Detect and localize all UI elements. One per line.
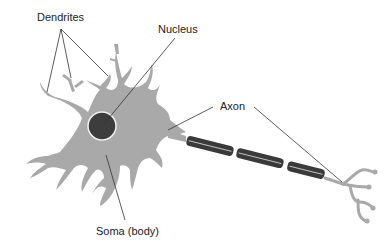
label-nucleus: Nucleus <box>158 24 198 35</box>
dendrites-leader-3 <box>61 29 108 76</box>
terminal-boutons <box>365 170 378 224</box>
axon-terminal <box>325 170 374 221</box>
dendrites-leader-1 <box>47 29 61 92</box>
neuron-diagram: Dendrites Nucleus Axon Soma (body) <box>0 0 391 251</box>
label-dendrites: Dendrites <box>37 12 84 23</box>
nucleus-shape <box>88 112 116 140</box>
myelin-sheaths <box>186 135 326 179</box>
dendrites-leader-2 <box>61 29 71 78</box>
label-soma: Soma (body) <box>96 226 159 237</box>
axon-leader-1 <box>168 107 213 130</box>
label-axon: Axon <box>220 101 245 112</box>
neuron-illustration <box>0 0 391 251</box>
